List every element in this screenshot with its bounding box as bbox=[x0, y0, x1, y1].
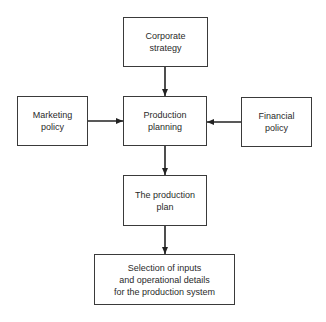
node-selection-of-inputs: Selection of inputs and operational deta… bbox=[94, 254, 235, 305]
node-financial-policy: Financial policy bbox=[241, 97, 312, 147]
node-marketing-policy: Marketing policy bbox=[17, 96, 88, 146]
node-corporate-strategy: Corporate strategy bbox=[123, 17, 208, 67]
node-production-planning: Production planning bbox=[123, 96, 207, 146]
node-production-plan: The production plan bbox=[123, 175, 207, 226]
